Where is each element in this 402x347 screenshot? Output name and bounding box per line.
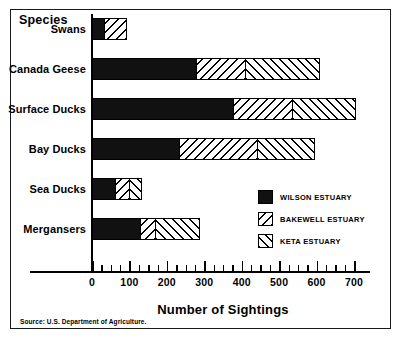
legend-swatch <box>258 234 273 248</box>
bar-segment <box>92 138 180 160</box>
x-tick-major <box>92 261 94 272</box>
chart-figure: Species SwansCanada GeeseSurface DucksBa… <box>0 0 402 347</box>
bar-segment <box>196 58 247 80</box>
bar-segment <box>179 138 258 160</box>
x-tick-minor <box>223 265 224 272</box>
x-tick-minor <box>148 265 149 272</box>
x-tick-major <box>242 261 244 272</box>
x-axis-line <box>30 271 370 273</box>
x-tick-minor <box>326 265 327 272</box>
x-tick-minor <box>111 265 112 272</box>
legend-swatch <box>258 190 273 204</box>
x-tick-major <box>167 261 169 272</box>
legend-swatch <box>258 212 273 226</box>
bar-segment <box>140 218 157 240</box>
x-tick-major <box>204 261 206 272</box>
source-note: Source: U.S. Department of Agriculture. <box>20 318 146 325</box>
bar-segment <box>155 218 200 240</box>
bar-segment <box>245 58 320 80</box>
bar-segment <box>92 58 197 80</box>
stacked-bar <box>92 178 142 200</box>
stacked-bar <box>92 218 200 240</box>
x-tick-minor <box>176 265 177 272</box>
bar-segment <box>115 178 130 200</box>
x-tick-minor <box>139 265 140 272</box>
bar-segment <box>92 98 234 120</box>
x-tick-minor <box>232 265 233 272</box>
x-tick-label: 600 <box>308 276 326 288</box>
bar-segment <box>104 18 126 40</box>
x-tick-label: 0 <box>89 276 95 288</box>
x-tick-minor <box>345 265 346 272</box>
x-tick-major <box>279 261 281 272</box>
category-label: Sea Ducks <box>29 183 86 195</box>
x-axis-title: Number of Sightings <box>92 302 354 317</box>
legend-item: BAKEWELL ESTUARY <box>258 211 365 227</box>
legend-item: WILSON ESTUARY <box>258 189 365 205</box>
stacked-bar <box>92 18 127 40</box>
legend-label: BAKEWELL ESTUARY <box>280 215 365 224</box>
x-tick-minor <box>289 265 290 272</box>
x-tick-label: 300 <box>195 276 213 288</box>
bar-segment <box>129 178 142 200</box>
x-tick-minor <box>101 265 102 272</box>
bar-segment <box>257 138 315 160</box>
x-tick-minor <box>158 265 159 272</box>
x-tick-minor <box>335 265 336 272</box>
legend-label: KETA ESTUARY <box>280 237 341 246</box>
x-tick-minor <box>186 265 187 272</box>
stacked-bar <box>92 98 356 120</box>
x-tick-minor <box>260 265 261 272</box>
x-tick-label: 200 <box>158 276 176 288</box>
x-tick-minor <box>251 265 252 272</box>
category-label: Bay Ducks <box>29 143 86 155</box>
x-tick-minor <box>270 265 271 272</box>
x-tick-label: 400 <box>233 276 251 288</box>
bar-segment <box>292 98 356 120</box>
bar-segment <box>92 218 141 240</box>
bar-segment <box>92 178 116 200</box>
x-tick-minor <box>195 265 196 272</box>
x-tick-minor <box>307 265 308 272</box>
x-tick-major <box>317 261 319 272</box>
category-label: Mergansers <box>23 223 86 235</box>
category-label: Surface Ducks <box>8 103 86 115</box>
x-tick-label: 700 <box>345 276 363 288</box>
category-label: Swans <box>51 23 86 35</box>
stacked-bar <box>92 138 315 160</box>
legend-item: KETA ESTUARY <box>258 233 365 249</box>
x-tick-major <box>354 261 356 272</box>
x-tick-minor <box>120 265 121 272</box>
stacked-bar <box>92 58 320 80</box>
x-tick-major <box>129 261 131 272</box>
chart-legend: WILSON ESTUARYBAKEWELL ESTUARYKETA ESTUA… <box>258 189 365 255</box>
category-label: Canada Geese <box>9 63 86 75</box>
x-tick-minor <box>214 265 215 272</box>
x-tick-minor <box>298 265 299 272</box>
legend-label: WILSON ESTUARY <box>280 193 352 202</box>
bar-segment <box>233 98 293 120</box>
x-tick-label: 100 <box>120 276 138 288</box>
x-tick-label: 500 <box>270 276 288 288</box>
